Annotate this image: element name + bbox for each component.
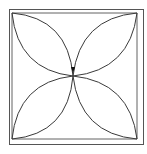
petal-bottom-left-edge-a <box>12 76 73 139</box>
petals <box>12 13 137 139</box>
quilt-diagram <box>0 0 147 154</box>
arrow-down-icon <box>71 67 75 73</box>
petal-top-left-edge-a <box>12 13 73 76</box>
outer-frame <box>10 10 144 145</box>
